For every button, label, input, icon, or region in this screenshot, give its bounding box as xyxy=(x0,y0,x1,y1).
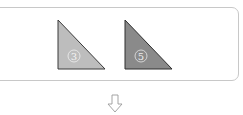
triangle-3: 3 xyxy=(58,20,105,69)
triangle-3-label: 3 xyxy=(71,51,77,62)
diagram-canvas: 3 5 xyxy=(0,0,243,115)
triangle-5: 5 xyxy=(125,20,172,69)
triangle-5-label: 5 xyxy=(138,51,144,62)
down-arrow-icon xyxy=(108,95,122,112)
